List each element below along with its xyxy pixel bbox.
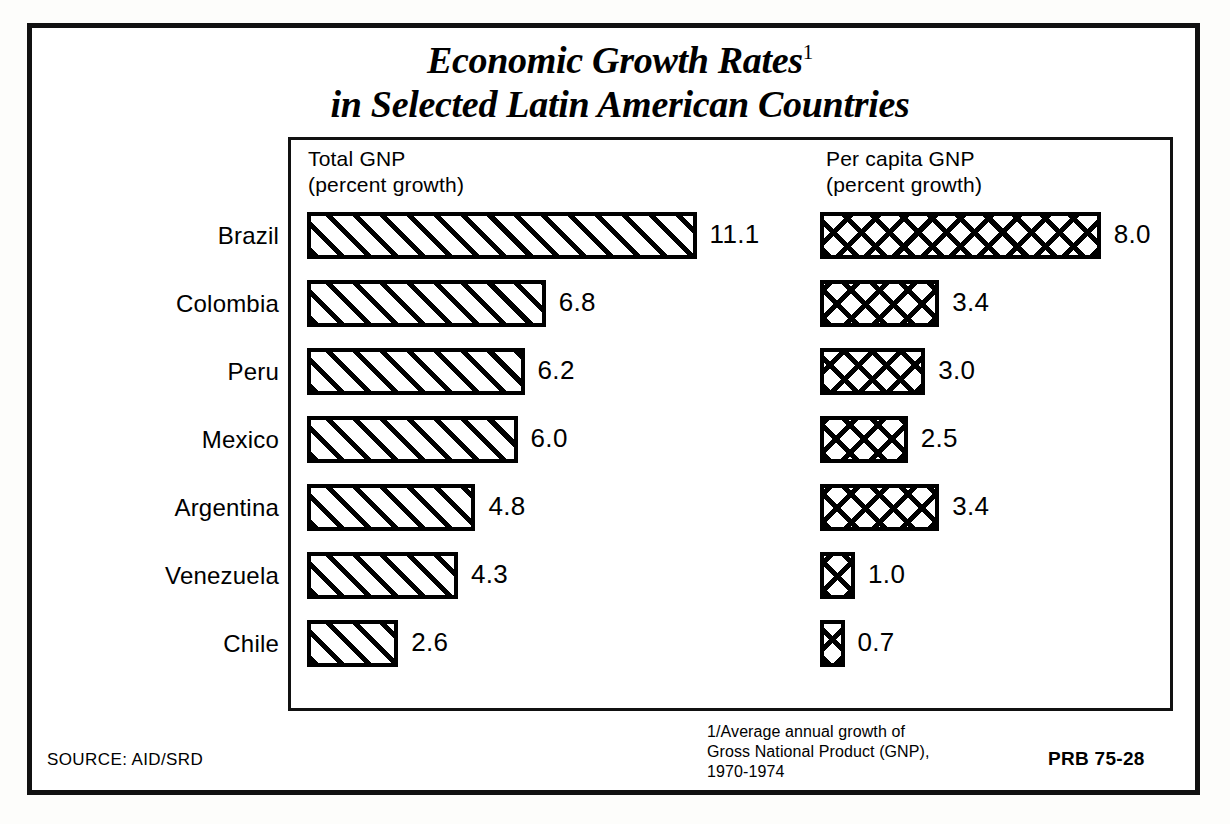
country-label-peru: Peru [228, 358, 280, 386]
value-per-capita-gnp-argentina: 3.4 [952, 491, 989, 522]
bar-per-capita-gnp-chile [820, 620, 845, 667]
bar-total-gnp-chile [307, 620, 398, 667]
country-label-mexico: Mexico [202, 426, 279, 454]
source-label: SOURCE: AID/SRD [47, 750, 203, 770]
country-label-colombia: Colombia [176, 290, 279, 318]
bar-total-gnp-brazil [307, 212, 697, 259]
bar-row: Brazil11.18.0 [0, 212, 1230, 280]
bar-per-capita-gnp-mexico [820, 416, 908, 463]
column-header-per-capita-gnp: Per capita GNP (percent growth) [826, 146, 982, 197]
bar-row: Venezuela4.31.0 [0, 552, 1230, 620]
value-total-gnp-peru: 6.2 [538, 355, 575, 386]
value-per-capita-gnp-colombia: 3.4 [952, 287, 989, 318]
bar-per-capita-gnp-colombia [820, 280, 939, 327]
bar-per-capita-gnp-peru [820, 348, 925, 395]
value-total-gnp-mexico: 6.0 [531, 423, 568, 454]
value-total-gnp-colombia: 6.8 [559, 287, 596, 318]
bar-row: Mexico6.02.5 [0, 416, 1230, 484]
chart-poster: Economic Growth Rates1 in Selected Latin… [0, 0, 1230, 824]
bar-total-gnp-venezuela [307, 552, 458, 599]
column-header-total-gnp: Total GNP (percent growth) [308, 146, 464, 197]
bar-per-capita-gnp-brazil [820, 212, 1101, 259]
title-footnote-marker: 1 [803, 40, 813, 64]
value-total-gnp-venezuela: 4.3 [471, 559, 508, 590]
title-line-1: Economic Growth Rates1 [150, 38, 1090, 82]
bar-per-capita-gnp-venezuela [820, 552, 855, 599]
bar-total-gnp-colombia [307, 280, 546, 327]
country-label-venezuela: Venezuela [165, 562, 279, 590]
value-per-capita-gnp-venezuela: 1.0 [868, 559, 905, 590]
title-line-2: in Selected Latin American Countries [150, 82, 1090, 126]
value-total-gnp-argentina: 4.8 [488, 491, 525, 522]
value-total-gnp-brazil: 11.1 [710, 219, 760, 250]
bar-row: Argentina4.83.4 [0, 484, 1230, 552]
bar-total-gnp-mexico [307, 416, 518, 463]
publication-code: PRB 75-28 [1048, 748, 1145, 770]
title-main-text: Economic Growth Rates [427, 39, 803, 81]
value-per-capita-gnp-chile: 0.7 [858, 627, 895, 658]
footnote-text: 1/Average annual growth of Gross Nationa… [707, 722, 930, 782]
bar-total-gnp-argentina [307, 484, 475, 531]
bar-total-gnp-peru [307, 348, 525, 395]
value-total-gnp-chile: 2.6 [411, 627, 448, 658]
page-title: Economic Growth Rates1 in Selected Latin… [150, 38, 1090, 126]
value-per-capita-gnp-mexico: 2.5 [921, 423, 958, 454]
bar-per-capita-gnp-argentina [820, 484, 939, 531]
country-label-chile: Chile [223, 630, 279, 658]
country-label-brazil: Brazil [218, 222, 279, 250]
country-label-argentina: Argentina [174, 494, 279, 522]
bar-row: Peru6.23.0 [0, 348, 1230, 416]
value-per-capita-gnp-brazil: 8.0 [1114, 219, 1151, 250]
bar-row: Chile2.60.7 [0, 620, 1230, 688]
value-per-capita-gnp-peru: 3.0 [938, 355, 975, 386]
bar-row: Colombia6.83.4 [0, 280, 1230, 348]
